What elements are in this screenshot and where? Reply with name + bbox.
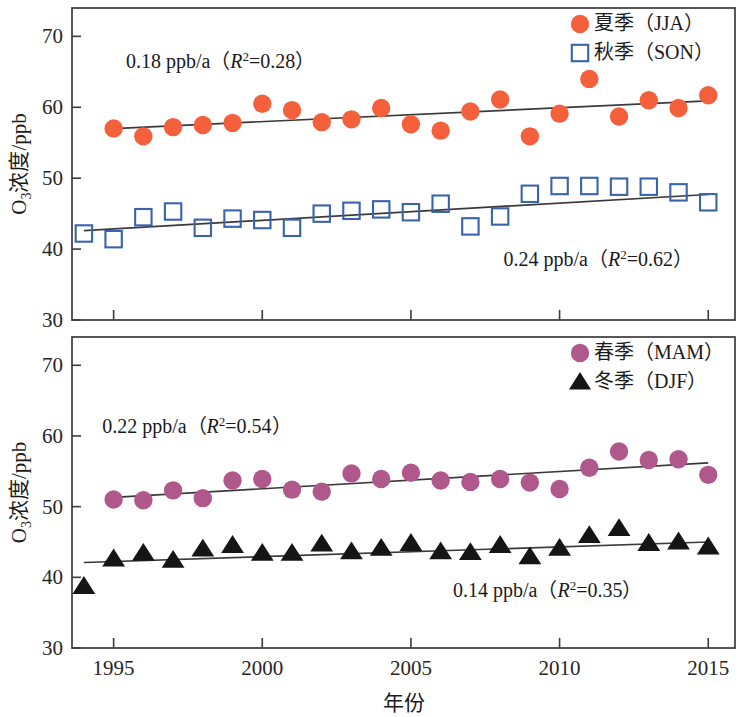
y-axis-title-subscript: 3: [19, 521, 34, 528]
data-point: [550, 480, 568, 498]
data-point: [459, 542, 482, 560]
y-axis-title-subscript: 3: [19, 193, 34, 200]
annotation-r2-value: =0.62）: [627, 248, 693, 270]
data-point: [640, 91, 658, 109]
data-point: [402, 464, 420, 482]
legend-marker-bottom-1: [569, 372, 591, 390]
data-point: [104, 490, 122, 508]
annotation-r2-value: =0.54）: [225, 415, 291, 437]
data-point: [402, 115, 420, 133]
data-point: [313, 113, 331, 131]
data-point: [164, 118, 182, 136]
x-tick-label-1995: 1995: [93, 656, 135, 680]
trend-annotation-top-1: 0.24 ppb/a（R2=0.62）: [504, 247, 693, 271]
annotation-r-symbol: R: [229, 50, 242, 72]
annotation-r2-value: =0.35）: [576, 579, 642, 601]
data-point: [343, 203, 359, 219]
data-point: [194, 489, 212, 507]
data-point: [669, 99, 687, 117]
data-point: [134, 491, 152, 509]
data-point: [134, 127, 152, 145]
data-point: [610, 107, 628, 125]
annotation-r-symbol: R: [607, 248, 620, 270]
data-point: [104, 119, 122, 137]
data-point: [580, 70, 598, 88]
series-top-0: [104, 70, 717, 146]
data-point: [221, 535, 244, 553]
annotation-slope: 0.22 ppb/a（: [102, 415, 206, 438]
y-axis-title-rest: 浓度/ppb: [7, 113, 31, 192]
trend-annotation-top-0: 0.18 ppb/a（R2=0.28）: [126, 49, 315, 73]
legend-top: 夏季（JJA）秋季（SON）: [571, 12, 714, 63]
data-point: [76, 225, 92, 241]
series-bottom-0: [104, 442, 717, 509]
data-point: [491, 470, 509, 488]
data-point: [521, 127, 539, 145]
data-point: [699, 466, 717, 484]
y-axis-title-o: O: [7, 528, 31, 543]
data-point: [608, 518, 631, 536]
data-point: [372, 470, 390, 488]
x-tick-label-2005: 2005: [390, 656, 432, 680]
data-point: [580, 459, 598, 477]
data-point: [521, 473, 539, 491]
legend-label-bottom-0: 春季（MAM）: [594, 341, 724, 363]
figure-root: 3040506070O3浓度/ppb0.18 ppb/a（R2=0.28）0.2…: [0, 0, 753, 717]
data-point: [191, 539, 214, 557]
x-tick-label-2000: 2000: [241, 656, 283, 680]
data-point: [284, 220, 300, 236]
data-point: [700, 194, 716, 210]
legend-marker-bottom-0: [571, 344, 589, 362]
y-tick-label-top-40: 40: [42, 237, 63, 261]
data-point: [431, 121, 449, 139]
annotation-r-symbol: R: [556, 579, 569, 601]
data-point: [372, 99, 390, 117]
annotation-slope: 0.18 ppb/a（: [126, 50, 230, 73]
data-point: [370, 538, 393, 556]
trend-annotation-bottom-1: 0.14 ppb/a（R2=0.35）: [453, 578, 642, 602]
annotation-slope: 0.24 ppb/a（: [504, 248, 608, 271]
y-axis-title-bottom: O3浓度/ppb: [7, 442, 34, 544]
data-point: [105, 231, 121, 247]
data-point: [581, 178, 597, 194]
data-point: [637, 533, 660, 551]
data-point: [223, 471, 241, 489]
data-point: [669, 450, 687, 468]
data-point: [489, 535, 512, 553]
y-tick-label-top-30: 30: [42, 308, 63, 332]
data-point: [195, 220, 211, 236]
data-point: [610, 442, 628, 460]
o3-seasonal-trend-figure: 3040506070O3浓度/ppb0.18 ppb/a（R2=0.28）0.2…: [0, 0, 753, 717]
y-tick-label-bottom-70: 70: [42, 353, 63, 377]
data-point: [165, 203, 181, 219]
data-point: [135, 209, 151, 225]
annotation-r-symbol: R: [206, 415, 219, 437]
data-point: [667, 532, 690, 550]
data-point: [342, 464, 360, 482]
legend-marker-top-0: [571, 15, 589, 33]
data-point: [223, 114, 241, 132]
y-tick-label-bottom-60: 60: [42, 424, 63, 448]
data-point: [670, 184, 686, 200]
data-point: [373, 201, 389, 217]
y-tick-label-bottom-40: 40: [42, 565, 63, 589]
data-point: [281, 543, 304, 561]
data-point: [697, 537, 720, 555]
data-point: [640, 451, 658, 469]
y-tick-label-top-60: 60: [42, 95, 63, 119]
legend-label-bottom-1: 冬季（DJF）: [594, 370, 707, 392]
data-point: [400, 533, 423, 551]
y-axis-title-o: O: [7, 200, 31, 215]
data-point: [102, 549, 125, 567]
data-point: [699, 86, 717, 104]
legend-marker-top-1: [572, 45, 588, 61]
data-point: [550, 104, 568, 122]
y-axis-title-rest: 浓度/ppb: [7, 442, 31, 521]
data-point: [194, 116, 212, 134]
y-tick-label-bottom-50: 50: [42, 495, 63, 519]
data-point: [283, 101, 301, 119]
x-tick-label-2015: 2015: [687, 656, 729, 680]
trend-annotation-bottom-0: 0.22 ppb/a（R2=0.54）: [102, 414, 291, 438]
annotation-r2-value: =0.28）: [249, 50, 315, 72]
x-tick-label-2010: 2010: [539, 656, 581, 680]
